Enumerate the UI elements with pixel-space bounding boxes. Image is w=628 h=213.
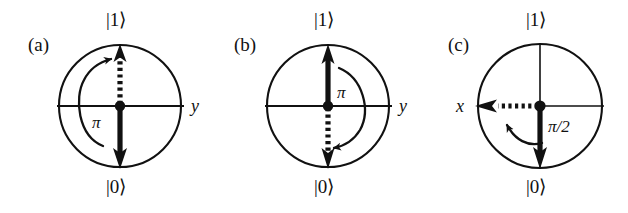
- rotation-arc: [79, 59, 111, 146]
- rotation-arc: [507, 125, 542, 144]
- bloch-rotation-figure: (a) |1⟩ |0⟩ y π (b) |1⟩ |0⟩: [0, 0, 628, 213]
- ket-top-label-b: |1⟩: [314, 10, 334, 29]
- panel-letter-b: (b): [234, 35, 256, 54]
- panel-letter-a: (a): [28, 35, 49, 54]
- panel-a: (a) |1⟩ |0⟩ y π: [0, 0, 210, 213]
- angle-label-a: π: [92, 114, 101, 131]
- axis-label-b: y: [399, 97, 407, 115]
- dotted-arrow-head: [114, 44, 127, 62]
- origin-dot: [115, 101, 125, 111]
- ket-top-label-a: |1⟩: [106, 10, 126, 29]
- panel-c: (c) |1⟩ |0⟩ x π/2: [418, 0, 628, 213]
- origin-dot: [323, 101, 333, 111]
- angle-label-c: π/2: [548, 118, 570, 135]
- rotation-arc: [334, 68, 365, 148]
- ket-bottom-label-b: |0⟩: [314, 177, 334, 196]
- panel-letter-c: (c): [448, 35, 469, 54]
- axis-label-a: y: [191, 97, 199, 115]
- ket-bottom-label-a: |0⟩: [106, 177, 126, 196]
- origin-dot: [534, 100, 545, 111]
- panel-b: (b) |1⟩ |0⟩ y π: [208, 0, 418, 213]
- ket-bottom-label-c: |0⟩: [526, 177, 546, 196]
- angle-label-b: π: [337, 84, 346, 101]
- ket-top-label-c: |1⟩: [526, 10, 546, 29]
- axis-label-c: x: [456, 97, 464, 115]
